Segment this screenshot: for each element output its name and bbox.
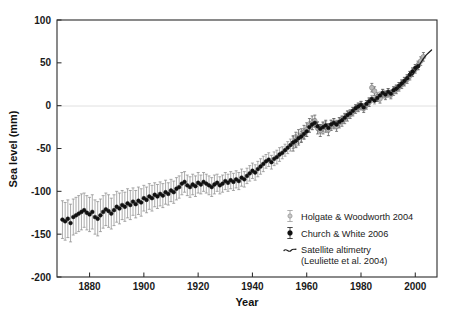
- data-point-church-white: [134, 202, 138, 206]
- figure-background: [0, 0, 453, 319]
- data-point-church-white: [150, 196, 154, 200]
- x-tick-label: 2000: [404, 281, 427, 292]
- data-point-church-white: [253, 171, 257, 175]
- data-point-church-white: [270, 160, 274, 164]
- y-tick-label: 100: [34, 15, 51, 26]
- data-point-church-white: [305, 129, 309, 133]
- data-point-church-white: [161, 194, 165, 198]
- data-point-church-white: [389, 92, 393, 96]
- data-point-church-white: [90, 210, 94, 214]
- data-point-church-white: [128, 203, 132, 207]
- legend-item-holgate-woodworth: Holgate & Woodworth 2004: [287, 211, 413, 222]
- x-tick-label: 1960: [296, 281, 319, 292]
- x-tick-label: 1920: [187, 281, 210, 292]
- sea-level-chart-figure: 1880190019201940196019802000 -200-150-10…: [0, 0, 453, 319]
- y-tick-label: -50: [37, 143, 52, 154]
- y-tick-label: -200: [31, 272, 51, 283]
- x-tick-label: 1940: [241, 281, 264, 292]
- y-tick-label: 0: [45, 100, 51, 111]
- legend-label-holgate-woodworth: Holgate & Woodworth 2004: [301, 212, 413, 222]
- data-point-church-white: [313, 121, 317, 125]
- data-point-church-white: [112, 208, 116, 212]
- data-point-church-white: [242, 177, 246, 181]
- legend-label-church-white: Church & White 2006: [301, 229, 388, 239]
- data-point-church-white: [123, 205, 127, 209]
- x-tick-label: 1980: [350, 281, 373, 292]
- chart-svg: 1880190019201940196019802000 -200-150-10…: [0, 0, 453, 319]
- data-point-church-white: [362, 105, 366, 109]
- x-axis-title: Year: [235, 296, 259, 308]
- data-point-church-white: [166, 192, 170, 196]
- data-point-church-white: [66, 217, 70, 221]
- y-tick-label: -150: [31, 229, 51, 240]
- x-tick-label: 1900: [133, 281, 156, 292]
- data-point-church-white: [183, 180, 187, 184]
- y-tick-label: -100: [31, 186, 51, 197]
- data-point-church-white: [69, 221, 73, 225]
- legend-label-satellite-altimetry-citation: (Leuliette et al. 2004): [301, 256, 387, 266]
- data-point-church-white: [237, 179, 241, 183]
- data-point-church-white: [109, 212, 113, 216]
- data-point-church-white: [327, 126, 331, 130]
- data-point-church-white: [177, 185, 181, 189]
- data-point-church-white: [139, 201, 143, 205]
- data-point-church-white: [145, 198, 149, 202]
- legend-label-satellite-altimetry: Satellite altimetry: [301, 245, 371, 255]
- y-tick-label: 50: [40, 57, 52, 68]
- data-point-church-white: [194, 184, 198, 188]
- data-point-church-white: [96, 217, 100, 221]
- data-point-church-white: [99, 213, 103, 217]
- legend-item-church-white: Church & White 2006: [287, 228, 388, 239]
- data-point-church-white: [118, 207, 122, 211]
- data-point-church-white: [172, 190, 176, 194]
- data-point-holgate-woodworth: [372, 89, 377, 94]
- y-axis-title: Sea level (mm): [7, 110, 19, 187]
- x-tick-label: 1880: [78, 281, 101, 292]
